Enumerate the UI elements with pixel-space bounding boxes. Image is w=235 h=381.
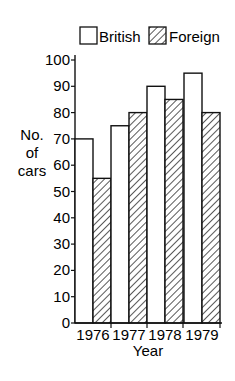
x-tick-label: 1979	[185, 326, 218, 343]
y-tick-label: 0	[62, 314, 70, 331]
y-axis-title-line: No.	[20, 126, 43, 143]
y-axis-title-line: of	[26, 144, 39, 161]
bar-british-1978	[147, 86, 165, 323]
y-tick-label: 50	[53, 183, 70, 200]
legend: British Foreign	[80, 27, 220, 45]
bar-chart: British Foreign 0102030405060708090100 N…	[0, 0, 235, 381]
legend-label-foreign: Foreign	[169, 28, 220, 45]
y-tick-label: 60	[53, 156, 70, 173]
bar-british-1976	[75, 139, 93, 323]
bar-british-1977	[111, 126, 129, 323]
legend-label-british: British	[99, 28, 141, 45]
bar-foreign-1978	[165, 99, 183, 323]
bar-foreign-1977	[129, 113, 147, 323]
bar-foreign-1979	[202, 113, 220, 323]
y-tick-label: 80	[53, 104, 70, 121]
y-axis-title: No.ofcars	[18, 126, 46, 179]
y-tick-label: 20	[53, 261, 70, 278]
y-axis-title-line: cars	[18, 162, 46, 179]
legend-swatch-british	[80, 27, 97, 44]
y-tick-label: 70	[53, 130, 70, 147]
bars	[75, 73, 220, 323]
x-axis-title: Year	[133, 342, 163, 359]
y-axis: 0102030405060708090100	[45, 51, 75, 331]
legend-swatch-foreign	[149, 27, 166, 44]
x-axis: 1976197719781979	[75, 323, 222, 343]
bar-british-1979	[184, 73, 202, 323]
y-tick-label: 10	[53, 288, 70, 305]
x-tick-label: 1978	[148, 326, 181, 343]
x-tick-label: 1977	[112, 326, 145, 343]
x-tick-label: 1976	[76, 326, 109, 343]
y-tick-label: 30	[53, 235, 70, 252]
y-tick-label: 40	[53, 209, 70, 226]
y-tick-label: 90	[53, 77, 70, 94]
y-tick-label: 100	[45, 51, 70, 68]
bar-foreign-1976	[93, 178, 111, 323]
